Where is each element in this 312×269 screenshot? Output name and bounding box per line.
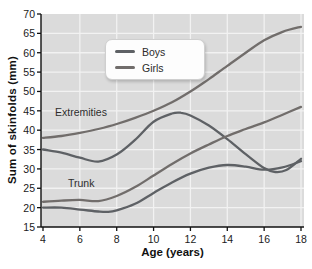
y-tick-label: 40 (9, 125, 35, 135)
x-axis-title: Age (years) (41, 246, 304, 258)
x-tick-label: 6 (68, 234, 92, 244)
y-tick-label: 50 (9, 86, 35, 96)
x-tick-label: 14 (215, 234, 239, 244)
y-tick-label: 15 (9, 222, 35, 232)
y-tick-label: 55 (9, 67, 35, 77)
x-tick-label: 18 (289, 234, 312, 244)
y-tick-label: 45 (9, 106, 35, 116)
y-tick-label: 60 (9, 48, 35, 58)
legend-label-boys: Boys (142, 46, 165, 58)
y-tick-label: 20 (9, 203, 35, 213)
legend-item-girls: Girls (115, 62, 204, 74)
y-tick-label: 65 (9, 28, 35, 38)
y-tick-label: 30 (9, 164, 35, 174)
x-tick-label: 10 (142, 234, 166, 244)
x-tick-label: 4 (31, 234, 55, 244)
legend-label-girls: Girls (142, 62, 164, 74)
x-tick-label: 12 (178, 234, 202, 244)
boys-line-swatch-icon (115, 50, 135, 53)
x-tick-label: 16 (252, 234, 276, 244)
girls-line-swatch-icon (115, 66, 135, 69)
x-tick-label: 8 (105, 234, 129, 244)
legend-item-boys: Boys (115, 46, 204, 58)
y-tick-label: 70 (9, 9, 35, 19)
y-tick-label: 25 (9, 183, 35, 193)
legend: Boys Girls (105, 39, 205, 80)
y-tick-label: 35 (9, 145, 35, 155)
skinfolds-age-chart: Sum of skinfolds (mm) Age (years) 152025… (0, 0, 312, 269)
